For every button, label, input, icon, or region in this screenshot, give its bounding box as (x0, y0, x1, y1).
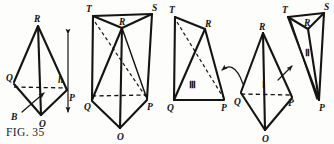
edge-T-R (93, 16, 122, 28)
label-h-panel1: h (58, 75, 63, 85)
edge-R-P2 (122, 28, 147, 99)
edge-T-Q (92, 16, 93, 100)
edge-R-O2 (120, 28, 122, 128)
label-Q-panel1: Q (6, 73, 13, 83)
edge-S-P5 (319, 13, 324, 100)
label-P-panel4-right: P (319, 103, 325, 113)
label-Q-panel2: Q (84, 102, 91, 112)
label-O-panel2: O (117, 132, 124, 142)
label-T-panel3: T (169, 5, 176, 15)
figure-canvas: R Q P O h B T S R Q P (0, 0, 334, 144)
edge-O-P (41, 90, 67, 115)
figure-35: R Q P O h B T S R Q P (0, 0, 334, 144)
label-P-panel3: P (221, 103, 227, 113)
edge-R-P4 (263, 33, 292, 97)
label-T-panel2: T (86, 4, 93, 14)
edge-S-P (147, 14, 152, 99)
label-T-panel4: T (282, 5, 289, 15)
label-R-panel2: R (118, 17, 125, 27)
label-P-panel1: P (69, 93, 75, 103)
label-B-panel1: B (10, 112, 17, 122)
edge-Q-P-hidden2 (92, 95, 147, 96)
edge-R-Q4 (241, 33, 263, 92)
edge-R-Q (14, 26, 38, 82)
edge-T-Q3 (174, 17, 175, 100)
numeral-one: Ⅰ (262, 79, 265, 90)
label-Q-panel3: Q (167, 103, 174, 113)
label-R-panel1: R (33, 14, 40, 24)
edge-T-S (93, 14, 152, 16)
edge-T-P-hidden3 (177, 22, 223, 97)
edge-Q-O4 (241, 93, 265, 130)
panel-3-geometry (174, 17, 224, 100)
edge-Q-P-hidden4 (241, 94, 291, 95)
label-R-panel4-left: R (258, 22, 265, 32)
panel-2-geometry (92, 14, 152, 128)
figure-caption: FIG. 35 (6, 126, 45, 138)
numeral-two: Ⅱ (305, 47, 310, 58)
edge-S-R (122, 14, 152, 28)
label-Q-panel4: Q (234, 97, 241, 107)
label-S-panel4: S (324, 2, 329, 12)
label-P-panel4-mid: P (288, 98, 294, 108)
edge-T-R3 (175, 17, 205, 29)
label-P-panel2: P (147, 102, 153, 112)
curved-arrow-left (222, 67, 243, 84)
label-R-panel4-inner: R (303, 18, 310, 28)
label-R-panel3: R (204, 19, 211, 29)
panel-4-geometry (241, 13, 324, 130)
panel-1-geometry (14, 26, 68, 115)
edge-R-O (38, 26, 41, 115)
edge-R-P3 (205, 29, 224, 99)
edge-Q-O2 (92, 101, 120, 128)
edge-T-S5 (288, 13, 324, 17)
edge-O-P2 (120, 100, 147, 128)
label-S-panel2: S (152, 3, 157, 13)
label-O-panel4: O (262, 134, 269, 144)
numeral-three: Ⅲ (189, 79, 196, 90)
